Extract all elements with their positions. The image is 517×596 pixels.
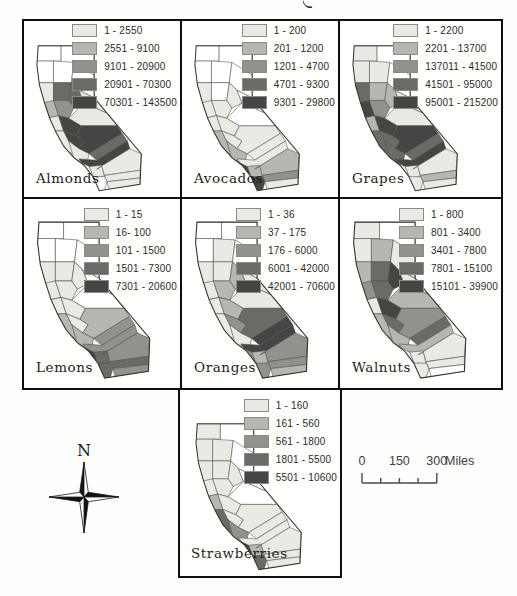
legend-swatch <box>72 24 97 37</box>
legend-range-label: 161 - 560 <box>276 418 320 429</box>
legend-range-label: 5501 - 10600 <box>276 472 337 483</box>
cropped-title-fragment <box>303 0 313 8</box>
legend-range-label: 1501 - 7300 <box>116 263 172 274</box>
county-cell <box>213 239 235 262</box>
legend-row: 15101 - 39900 <box>399 280 498 293</box>
legend-range-label: 7301 - 20600 <box>116 281 177 292</box>
legend-swatch <box>84 280 109 293</box>
legend-range-label: 1 - 2550 <box>104 25 142 36</box>
legend-swatch <box>242 42 267 55</box>
scale-label-0: 0 <box>359 454 366 468</box>
county-cell <box>55 262 74 281</box>
panel-strawberries: 1 - 160161 - 560561 - 18001801 - 5500550… <box>178 388 342 578</box>
legend-range-label: 2201 - 13700 <box>425 43 486 54</box>
legend-row: 16- 100 <box>84 226 177 239</box>
legend-row: 1 - 800 <box>399 208 498 221</box>
county-cell <box>352 222 379 238</box>
legend-row: 1 - 2550 <box>72 24 177 37</box>
legend-row: 3401 - 7800 <box>399 244 498 257</box>
legend-swatch <box>393 78 418 91</box>
legend-row: 9301 - 29800 <box>242 96 335 109</box>
panel-oranges: 1 - 3637 - 175176 - 60006001 - 420004200… <box>180 197 340 390</box>
legend-swatch <box>236 208 261 221</box>
legend-swatch <box>393 96 418 109</box>
legend-row: 5501 - 10600 <box>244 471 337 484</box>
legend-range-label: 9301 - 29800 <box>274 97 335 108</box>
county-cell <box>194 46 219 61</box>
legend-range-label: 70301 - 143500 <box>104 97 177 108</box>
legend-swatch <box>242 60 267 73</box>
scale-bar-ticks <box>362 473 437 483</box>
panel-walnuts: 1 - 800801 - 34003401 - 78007801 - 15100… <box>338 197 503 390</box>
county-cell <box>194 222 221 238</box>
legend-swatch <box>236 226 261 239</box>
legend-swatch <box>399 244 424 257</box>
county-cell <box>213 439 234 461</box>
county-cell <box>53 61 73 83</box>
legend-row: 561 - 1800 <box>244 435 337 448</box>
county-cell <box>55 239 77 262</box>
legend-range-label: 2551 - 9100 <box>104 43 160 54</box>
county-cell <box>53 83 71 101</box>
legend-swatch <box>399 280 424 293</box>
legend-row: 1 - 160 <box>244 399 337 412</box>
legend-range-label: 3401 - 7800 <box>431 245 487 256</box>
legend-row: 1 - 36 <box>236 208 335 221</box>
legend-row: 1201 - 4700 <box>242 60 335 73</box>
legend-range-label: 561 - 1800 <box>276 436 326 447</box>
county-cell <box>195 424 221 439</box>
legend-row: 6001 - 42000 <box>236 262 335 275</box>
legend-swatch <box>72 42 97 55</box>
legend-row: 1 - 2200 <box>393 24 498 37</box>
county-cell <box>369 61 389 83</box>
legend-swatch <box>399 262 424 275</box>
scale-label-150: 150 <box>389 454 410 468</box>
legend-range-label: 9101 - 20900 <box>104 61 165 72</box>
legend-range-label: 20901 - 70300 <box>104 79 171 90</box>
legend-row: 95001 - 215200 <box>393 96 498 109</box>
legend-swatch <box>72 60 97 73</box>
legend-range-label: 1 - 200 <box>274 25 307 36</box>
panel-grapes: 1 - 22002201 - 13700137011 - 4150041501 … <box>338 19 503 199</box>
legend-row: 20901 - 70300 <box>72 78 177 91</box>
county-cell <box>352 46 377 61</box>
legend-strawberries: 1 - 160161 - 560561 - 18001801 - 5500550… <box>244 399 337 489</box>
panel-almonds: 1 - 25502551 - 91009101 - 2090020901 - 7… <box>22 19 182 199</box>
legend-row: 1 - 15 <box>84 208 177 221</box>
legend-swatch <box>393 42 418 55</box>
legend-swatch <box>242 96 267 109</box>
legend-swatch <box>236 280 261 293</box>
legend-range-label: 1801 - 5500 <box>276 454 332 465</box>
crop-label-oranges: Oranges <box>194 359 256 375</box>
legend-row: 2201 - 13700 <box>393 42 498 55</box>
legend-range-label: 101 - 1500 <box>116 245 166 256</box>
legend-lemons: 1 - 1516- 100101 - 15001501 - 73007301 -… <box>84 208 177 298</box>
legend-row: 37 - 175 <box>236 226 335 239</box>
legend-swatch <box>242 78 267 91</box>
county-cell <box>371 262 390 281</box>
panel-avocados: 1 - 200201 - 12001201 - 47004701 - 93009… <box>180 19 340 199</box>
legend-range-label: 1 - 800 <box>431 209 464 220</box>
compass-north-label: N <box>77 441 91 460</box>
legend-walnuts: 1 - 800801 - 34003401 - 78007801 - 15100… <box>399 208 498 298</box>
county-cell <box>369 83 387 101</box>
legend-swatch <box>84 262 109 275</box>
legend-range-label: 1201 - 4700 <box>274 61 330 72</box>
legend-row: 1801 - 5500 <box>244 453 337 466</box>
legend-row: 1501 - 7300 <box>84 262 177 275</box>
legend-range-label: 176 - 6000 <box>268 245 318 256</box>
crop-label-walnuts: Walnuts <box>352 359 411 375</box>
county-cell <box>36 46 61 61</box>
legend-range-label: 6001 - 42000 <box>268 263 329 274</box>
legend-range-label: 95001 - 215200 <box>425 97 498 108</box>
legend-row: 801 - 3400 <box>399 226 498 239</box>
legend-row: 41501 - 95000 <box>393 78 498 91</box>
county-cell <box>211 61 231 83</box>
compass-star-icon <box>49 462 119 533</box>
legend-swatch <box>399 226 424 239</box>
legend-range-label: 1 - 15 <box>116 209 143 220</box>
legend-range-label: 37 - 175 <box>268 227 306 238</box>
legend-range-label: 41501 - 95000 <box>425 79 492 90</box>
legend-avocados: 1 - 200201 - 12001201 - 47004701 - 93009… <box>242 24 335 114</box>
legend-swatch <box>84 244 109 257</box>
